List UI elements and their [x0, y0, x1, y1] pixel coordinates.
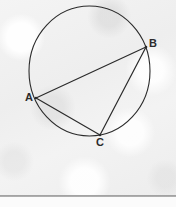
figure-container: A B C [0, 0, 176, 207]
vertex-point-b [145, 46, 148, 49]
chord-ab [36, 47, 146, 98]
circle-geometry-diagram [0, 0, 176, 207]
vertex-label-c: C [96, 137, 104, 148]
footer-area [0, 197, 176, 207]
vertex-label-a: A [25, 92, 33, 103]
vertex-label-b: B [149, 38, 157, 49]
circle-outline [29, 6, 150, 136]
horizontal-divider-rule [0, 195, 176, 197]
chord-bc [100, 47, 146, 135]
vertex-point-a [35, 97, 38, 100]
